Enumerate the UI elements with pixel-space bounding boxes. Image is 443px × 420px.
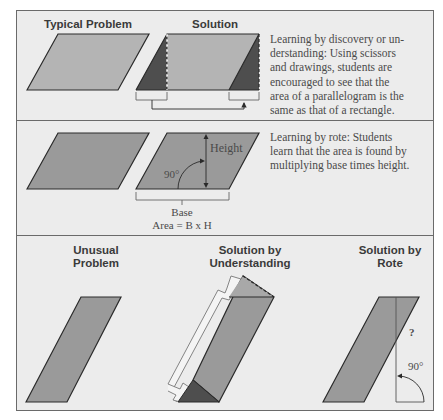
heading-solution-rote: Solution by Rote — [345, 244, 435, 270]
desc-line: multiplying base times height. — [270, 158, 435, 172]
parallelogram-area-diagram: Typical Problem Solution Learning by dis… — [0, 0, 443, 420]
heading-solution: Solution — [165, 18, 265, 31]
discovery-description: Learning by discovery or un- derstanding… — [270, 32, 435, 117]
desc-line: encouraged to see that the — [270, 75, 435, 89]
desc-line: Learning by rote: Students — [270, 130, 435, 144]
rote-angle-label-90: 90° — [408, 360, 423, 372]
desc-line: learn that the area is found by — [270, 144, 435, 158]
heading-solution-understanding: Solution by Understanding — [200, 244, 300, 270]
heading-typical-problem: Typical Problem — [38, 18, 138, 31]
rote-description: Learning by rote: Students learn that th… — [270, 130, 435, 173]
height-label: Height — [210, 141, 243, 156]
desc-line: Learning by discovery or un- — [270, 32, 435, 46]
desc-line: area of a parallelogram is the — [270, 89, 435, 103]
desc-line: and drawings, students are — [270, 60, 435, 74]
area-formula: Area = B x H — [142, 219, 222, 231]
angle-label-90: 90° — [164, 168, 179, 180]
desc-line: derstanding: Using scissors — [270, 46, 435, 60]
question-mark-label: ? — [409, 326, 415, 338]
desc-line: same as that of a rectangle. — [270, 103, 435, 117]
heading-unusual-problem: Unusual Problem — [56, 244, 136, 270]
base-label: Base — [162, 206, 202, 218]
